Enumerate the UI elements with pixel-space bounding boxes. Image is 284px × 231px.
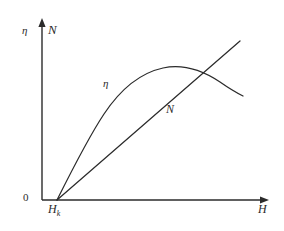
n-curve-label: N: [166, 103, 174, 115]
eta-curve-label: η: [103, 78, 108, 89]
figure-canvas: η N 0 Hk H η N: [0, 0, 284, 231]
x-axis-start-label: Hk: [48, 203, 60, 218]
y-axis-arrowhead-icon: [38, 18, 45, 27]
origin-tick-label: 0: [23, 192, 29, 203]
y-axis-label-n: N: [48, 23, 57, 36]
n-curve: [57, 41, 240, 200]
x-axis-label: H: [258, 203, 267, 215]
x-axis-start-label-subscript: k: [57, 209, 61, 218]
eta-curve: [57, 67, 243, 200]
x-axis-start-label-base: H: [48, 202, 57, 216]
plot-area: [0, 0, 284, 231]
y-axis-label-eta: η: [22, 25, 27, 36]
